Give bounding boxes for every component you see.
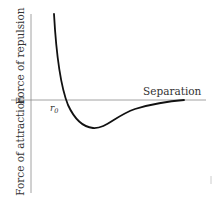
y-axis-repulsion-label: Force of repulsion xyxy=(14,7,26,104)
equilibrium-label: r0 xyxy=(50,103,58,115)
force-curve xyxy=(54,14,184,128)
x-axis-label: Separation xyxy=(143,85,202,97)
y-axis-attraction-label: Force of attraction xyxy=(14,96,26,196)
force-separation-diagram: Force of repulsion Force of attraction S… xyxy=(0,0,213,203)
